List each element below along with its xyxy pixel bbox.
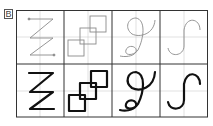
zigzag-bold [29,73,54,109]
squares-bold-1 [91,71,107,87]
squares-guide-1 [90,16,106,32]
squares-bold-3 [69,95,85,111]
stroke-practice-grid [0,0,213,126]
guide-row [28,16,200,57]
squares-guide-3 [68,40,84,56]
